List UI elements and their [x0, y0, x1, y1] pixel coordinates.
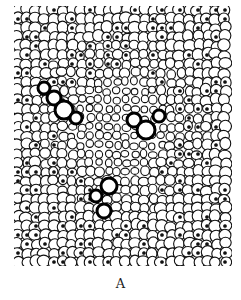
cell-cross-section-illustration: [14, 6, 232, 266]
figure-caption: A: [0, 276, 241, 291]
